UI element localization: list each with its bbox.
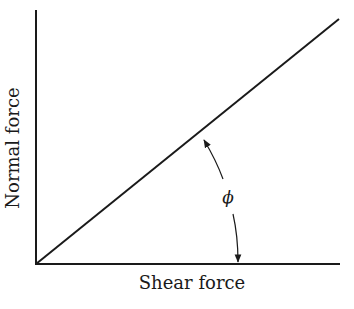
x-axis-label: Shear force <box>139 272 245 293</box>
angle-arc-lower <box>233 214 238 262</box>
y-axis-label: Normal force <box>2 87 23 208</box>
resultant-force-line <box>36 19 339 264</box>
friction-angle-diagram: ϕ Shear force Normal force <box>0 0 354 309</box>
angle-phi-label: ϕ <box>222 187 234 207</box>
angle-arc-upper <box>204 140 223 179</box>
